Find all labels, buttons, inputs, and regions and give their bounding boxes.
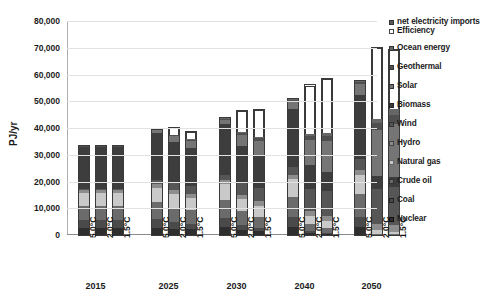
legend-label: Coal	[397, 195, 414, 204]
y-axis-tick-label: 10,000	[14, 204, 60, 212]
gridline	[67, 208, 377, 209]
legend-item-crude-oil[interactable]: Crude oil	[389, 176, 480, 185]
x-axis-scenario-label: 5.0°C	[161, 217, 171, 238]
legend-item-nuclear[interactable]: Nuclear	[389, 214, 480, 223]
y-axis-tick-label: 60,000	[14, 71, 60, 79]
legend-swatch	[389, 179, 394, 184]
bar-segment-crude-oil	[288, 197, 298, 217]
bar-2040-5-0°C[interactable]	[288, 99, 298, 235]
legend-swatch	[389, 103, 394, 108]
bar-segment-natural-gas	[113, 193, 123, 205]
y-axis-tick-label: 30,000	[14, 151, 60, 159]
legend-swatch	[389, 29, 394, 34]
bar-segment-wind	[186, 186, 196, 194]
energy-scenario-stacked-bar-chart: PJ/yr 80,00070,00060,00050,00040,00030,0…	[0, 0, 480, 304]
legend-swatch	[389, 65, 394, 70]
y-axis-tick-label: 70,000	[14, 44, 60, 52]
legend-swatch	[389, 160, 394, 165]
x-axis-scenario-label: 1.5°C	[195, 217, 205, 238]
bar-segment-solar	[355, 84, 365, 95]
x-axis-scenario-label: 5.0°C	[229, 217, 239, 238]
x-axis-group-label-2050: 2050	[346, 281, 397, 291]
legend-label: Solar	[397, 81, 417, 90]
legend-swatch	[389, 46, 394, 51]
legend-item-geothermal[interactable]: Geothermal	[389, 62, 480, 71]
bar-segment-solar	[322, 141, 332, 172]
x-axis-scenario-label: 1.5°C	[331, 217, 341, 238]
legend-item-net-electricity-imports[interactable]: net electricity imports	[389, 17, 480, 26]
y-axis-tick-label: 40,000	[14, 124, 60, 132]
bar-segment-wind	[237, 183, 247, 194]
x-axis-scenario-label: 2.0°C	[246, 217, 256, 238]
y-axis-tick-label: 80,000	[14, 17, 60, 25]
bar-segment-natural-gas	[220, 184, 230, 200]
bar-segment-wind	[288, 167, 298, 174]
legend-item-solar[interactable]: Solar	[389, 81, 480, 90]
gridline	[67, 128, 377, 129]
legend-swatch	[389, 141, 394, 146]
legend-label: Wind	[397, 119, 417, 128]
x-axis-group-label-2015: 2015	[70, 281, 121, 291]
legend-item-natural-gas[interactable]: Natural gas	[389, 157, 480, 166]
bar-segment-wind	[169, 183, 179, 190]
gridline	[67, 155, 377, 156]
x-axis-scenario-label: 2.0°C	[105, 217, 115, 238]
legend-swatch	[389, 217, 394, 222]
x-axis-scenario-label: 5.0°C	[364, 217, 374, 238]
bar-segment-biomass	[237, 146, 247, 183]
bar-segment-solar	[237, 135, 247, 146]
x-axis-scenario-label: 5.0°C	[88, 217, 98, 238]
bar-segment-biomass	[96, 147, 106, 189]
legend-swatch	[389, 122, 394, 127]
legend-item-biomass[interactable]: Biomass	[389, 100, 480, 109]
legend-item-ocean-energy[interactable]: Ocean energy	[389, 43, 480, 52]
bar-segment-natural-gas	[237, 199, 247, 211]
bar-segment-biomass	[220, 124, 230, 176]
gridline	[67, 101, 377, 102]
gridline	[67, 75, 377, 76]
bar-segment-wind	[254, 188, 264, 201]
legend-label: Natural gas	[397, 157, 441, 166]
legend-item-coal[interactable]: Coal	[389, 195, 480, 204]
bar-segment-efficiency	[186, 132, 196, 139]
y-axis-tick-label: 0	[14, 231, 60, 239]
gridline	[67, 48, 377, 49]
x-axis-group-label-2030: 2030	[211, 281, 262, 291]
gridline	[67, 182, 377, 183]
bar-segment-biomass	[152, 133, 162, 181]
bar-segment-efficiency	[305, 86, 315, 134]
legend-item-efficiency[interactable]: Efficiency	[389, 26, 480, 35]
bar-segment-natural-gas	[169, 194, 179, 207]
y-axis-tick-label: 50,000	[14, 97, 60, 105]
legend-item-hydro[interactable]: Hydro	[389, 138, 480, 147]
bar-2040-2-0°C[interactable]	[305, 85, 315, 235]
bar-2050-2-0°C[interactable]	[372, 48, 382, 235]
x-axis-group-label-2040: 2040	[279, 281, 330, 291]
legend-label: Nuclear	[397, 214, 426, 223]
bar-2040-1-5°C[interactable]	[322, 79, 332, 235]
bar-segment-wind	[322, 191, 332, 216]
legend-swatch	[389, 198, 394, 203]
legend-label: Biomass	[397, 100, 430, 109]
bar-segment-solar	[288, 102, 298, 109]
bar-segment-solar	[372, 130, 382, 175]
legend-label: Hydro	[397, 138, 420, 147]
bar-segment-biomass	[305, 165, 315, 189]
x-axis-scenario-label: 2.0°C	[314, 217, 324, 238]
bar-segment-natural-gas	[152, 188, 162, 202]
legend-swatch	[389, 20, 394, 25]
x-axis-group-label-2025: 2025	[143, 281, 194, 291]
bar-2050-5-0°C[interactable]	[355, 81, 365, 235]
legend-item-wind[interactable]: Wind	[389, 119, 480, 128]
x-axis-scenario-label: 1.5°C	[263, 217, 273, 238]
bar-segment-natural-gas	[79, 193, 89, 205]
bar-segment-biomass	[113, 147, 123, 189]
bar-segment-biomass	[254, 156, 264, 188]
y-axis-tick-labels: 80,00070,00060,00050,00040,00030,00020,0…	[12, 0, 60, 304]
bar-segment-efficiency	[322, 79, 332, 133]
y-axis-tick-label: 20,000	[14, 178, 60, 186]
x-axis-scenario-label: 5.0°C	[297, 217, 307, 238]
legend-swatch	[389, 84, 394, 89]
x-axis-scenario-label: 2.0°C	[178, 217, 188, 238]
bar-segment-wind	[355, 159, 365, 169]
